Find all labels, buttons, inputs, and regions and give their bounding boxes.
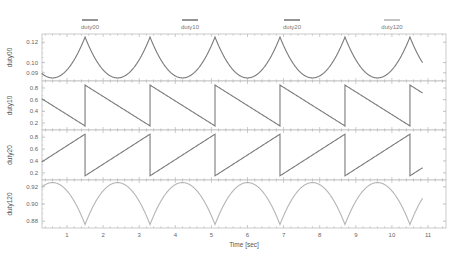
legend-item-duty00[interactable]: duty00	[81, 20, 100, 30]
y-axis-label: duty10	[6, 95, 14, 115]
y-axis-label: duty00	[6, 47, 14, 67]
x-tick-label: 5	[210, 232, 214, 238]
y-tick-label: 0.4	[30, 108, 39, 114]
y-tick-label: 0.10	[26, 60, 38, 66]
legend-label: duty10	[181, 24, 200, 30]
legend-item-duty20[interactable]: duty20	[283, 20, 302, 30]
x-tick-label: 6	[246, 232, 250, 238]
panel-duty00: 0.090.100.12duty00	[6, 34, 446, 81]
y-tick-label: 0.88	[26, 218, 38, 224]
x-tick-label: 9	[354, 232, 358, 238]
legend-item-duty120[interactable]: duty120	[381, 20, 403, 30]
legend-label: duty20	[283, 24, 302, 30]
x-axis: 1234567891011Time [sec]	[65, 232, 431, 249]
panel-duty10: 0.20.40.60.8duty10	[6, 81, 446, 130]
legend-item-duty10[interactable]: duty10	[181, 20, 200, 30]
x-tick-label: 8	[318, 232, 322, 238]
y-tick-label: 0.90	[26, 201, 38, 207]
x-tick-label: 11	[425, 232, 432, 238]
x-tick-label: 4	[174, 232, 178, 238]
plot-panels: 0.090.100.12duty000.20.40.60.8duty100.20…	[6, 34, 446, 228]
legend: duty00duty10duty20duty120	[81, 20, 403, 30]
y-tick-label: 0.92	[26, 184, 38, 190]
y-axis-label: duty20	[6, 145, 14, 165]
x-tick-label: 3	[138, 232, 142, 238]
x-tick-label: 1	[65, 232, 69, 238]
x-tick-label: 7	[282, 232, 286, 238]
panel-frame	[42, 81, 446, 130]
y-tick-label: 0.8	[30, 134, 39, 140]
y-tick-label: 0.6	[30, 146, 39, 152]
x-axis-label: Time [sec]	[229, 241, 259, 249]
y-tick-label: 0.8	[30, 85, 39, 91]
y-tick-label: 0.2	[30, 120, 39, 126]
panel-duty20: 0.20.40.60.8duty20	[6, 130, 446, 180]
legend-label: duty120	[381, 24, 403, 30]
y-axis-label: duty120	[6, 192, 14, 216]
x-tick-label: 10	[389, 232, 396, 238]
stacked-line-chart: duty00duty10duty20duty120 0.090.100.12du…	[0, 0, 464, 264]
y-tick-label: 0.09	[26, 70, 38, 76]
y-tick-label: 0.6	[30, 97, 39, 103]
legend-label: duty00	[81, 24, 100, 30]
y-tick-label: 0.4	[30, 158, 39, 164]
panel-frame	[42, 34, 446, 81]
y-tick-label: 0.2	[30, 170, 39, 176]
panel-duty120: 0.880.900.92duty120	[6, 180, 446, 228]
x-tick-label: 2	[101, 232, 105, 238]
panel-frame	[42, 130, 446, 180]
y-tick-label: 0.12	[26, 39, 38, 45]
panel-frame	[42, 180, 446, 228]
